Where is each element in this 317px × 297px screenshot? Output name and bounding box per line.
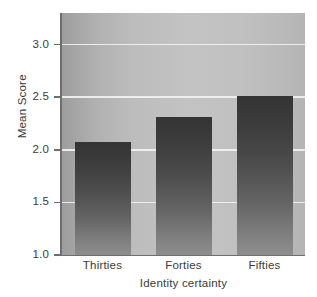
bar-thirties [75,142,131,255]
y-axis-line [60,13,62,255]
x-tick-label-fifties: Fifties [224,259,305,271]
x-tick-label-thirties: Thirties [62,259,143,271]
bar-forties [156,117,212,255]
y-tick-mark [54,96,61,98]
gridline-3 [62,44,305,46]
y-tick-label: 3.0 [9,38,49,50]
y-tick-label: 1.0 [9,248,49,260]
y-tick-label: 2.5 [9,90,49,102]
x-axis-line [60,255,305,257]
bar-chart-figure: Mean Score Identity certainty 1.01.52.02… [0,0,317,297]
x-axis-title: Identity certainty [62,277,305,289]
y-tick-label: 1.5 [9,195,49,207]
bar-fifties [237,96,293,255]
y-tick-mark [54,44,61,46]
y-tick-mark [54,202,61,204]
y-tick-label: 2.0 [9,143,49,155]
x-tick-label-forties: Forties [143,259,224,271]
plot-area [62,13,305,255]
y-tick-mark [54,254,61,256]
y-tick-mark [54,149,61,151]
